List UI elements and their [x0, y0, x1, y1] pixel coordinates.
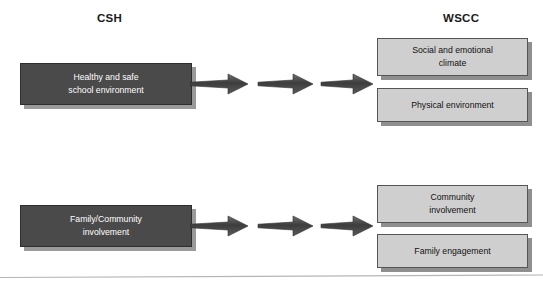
target-box-label: Family engagement	[414, 245, 490, 258]
arrow-right-icon-2	[258, 74, 313, 94]
source-box-label: Healthy and safeschool environment	[68, 71, 143, 96]
arrow-right-icon-group-2	[190, 211, 375, 241]
target-box-physical-environment: Physical environment	[377, 88, 528, 122]
target-box-social-and-emotional-climate: Social and emotionalclimate	[377, 38, 528, 76]
source-box-family-community-involvement: Family/Communityinvolvement	[20, 205, 192, 247]
footer-divider	[0, 271, 543, 281]
arrow-right-icon-3	[321, 74, 373, 94]
column-title-wscc: WSCC	[443, 12, 479, 24]
arrow-right-icon-group-1	[190, 69, 375, 99]
arrow-right-icon-1	[190, 74, 248, 94]
source-box-label: Family/Communityinvolvement	[70, 213, 142, 238]
arrow-right-icon-2	[258, 216, 313, 236]
target-box-label: Social and emotionalclimate	[412, 44, 493, 69]
column-title-csh: CSH	[97, 12, 122, 24]
arrow-group-row-1	[190, 69, 375, 99]
target-box-family-engagement: Family engagement	[377, 234, 528, 268]
target-box-community-involvement: Communityinvolvement	[377, 185, 528, 223]
target-box-label: Communityinvolvement	[429, 191, 475, 216]
source-box-healthy-and-safe-school-environment: Healthy and safeschool environment	[20, 63, 192, 105]
diagram-canvas: CSH WSCC Healthy and safeschool environm…	[0, 0, 543, 291]
arrow-right-icon-3	[321, 216, 373, 236]
arrow-group-row-2	[190, 211, 375, 241]
arrow-right-icon-1	[190, 216, 248, 236]
target-box-label: Physical environment	[411, 99, 494, 112]
